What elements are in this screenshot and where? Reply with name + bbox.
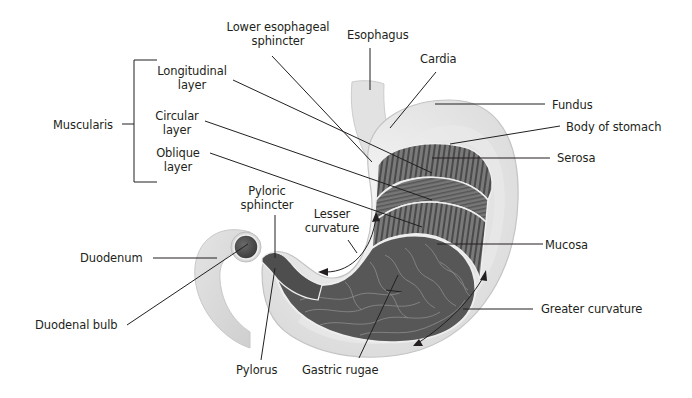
label-pyloric-sphincter: Pyloric sphincter [236, 184, 298, 212]
label-esophagus: Esophagus [347, 28, 409, 42]
label-body-of-stomach: Body of stomach [566, 120, 661, 134]
label-mucosa: Mucosa [545, 238, 588, 252]
label-line-2: curvature [300, 221, 364, 235]
label-muscularis: Muscularis [53, 118, 113, 132]
label-line-1: Circular [150, 109, 204, 123]
label-cardia: Cardia [420, 52, 457, 66]
stomach-illustration [0, 0, 692, 398]
label-line-1: Lower esophageal [218, 20, 338, 34]
label-longitudinal-layer: Longitudinal layer [152, 64, 232, 92]
label-oblique-layer: Oblique layer [150, 146, 206, 174]
label-line-2: layer [152, 78, 232, 92]
stomach-diagram: Lower esophageal sphincter Esophagus Car… [0, 0, 692, 398]
label-fundus: Fundus [552, 98, 593, 112]
label-line-2: layer [150, 160, 206, 174]
label-line-2: sphincter [218, 34, 338, 48]
label-duodenum: Duodenum [80, 251, 143, 265]
label-duodenal-bulb: Duodenal bulb [35, 318, 118, 332]
label-line-1: Oblique [150, 146, 206, 160]
label-line-2: sphincter [236, 198, 298, 212]
label-greater-curvature: Greater curvature [541, 302, 642, 316]
label-line-1: Lesser [300, 207, 364, 221]
label-lesser-curvature: Lesser curvature [300, 207, 364, 235]
label-line-2: layer [150, 123, 204, 137]
label-gastric-rugae: Gastric rugae [302, 363, 379, 377]
duodenal-bulb-shape [231, 232, 261, 262]
label-serosa: Serosa [557, 151, 595, 165]
label-line-1: Pyloric [236, 184, 298, 198]
label-pylorus: Pylorus [236, 363, 277, 377]
label-line-1: Longitudinal [152, 64, 232, 78]
label-circular-layer: Circular layer [150, 109, 204, 137]
label-lower-esophageal-sphincter: Lower esophageal sphincter [218, 20, 338, 48]
